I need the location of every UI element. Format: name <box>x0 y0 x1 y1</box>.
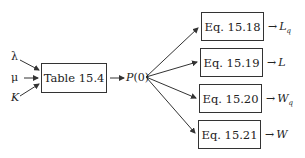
arrow-icon: → <box>265 128 274 141</box>
arrow-icon: → <box>268 20 277 33</box>
arrow-icon: → <box>266 92 275 105</box>
eq-label: Eq. 15.19 <box>204 56 260 70</box>
table-15-4-box: Table 15.4 <box>41 63 107 93</box>
output-l: →L <box>267 57 286 68</box>
fan-arrow-3 <box>146 77 196 98</box>
eq-label: Eq. 15.21 <box>202 128 258 142</box>
eq-15-18-box: Eq. 15.18 <box>201 12 264 41</box>
output-wq: →Wq <box>266 93 293 107</box>
eq-label: Eq. 15.18 <box>205 20 261 34</box>
arrow-icon: → <box>267 56 276 69</box>
lambda-arrow <box>20 60 39 70</box>
eq-label: Eq. 15.20 <box>203 92 259 106</box>
fan-arrow-4 <box>146 77 195 133</box>
k-arrow <box>20 84 39 96</box>
eq-15-20-box: Eq. 15.20 <box>199 84 262 113</box>
output-w: →W <box>265 129 288 140</box>
input-k: K <box>11 92 19 103</box>
table-box-label: Table 15.4 <box>44 71 105 85</box>
input-mu: μ <box>11 72 18 83</box>
eq-15-19-box: Eq. 15.19 <box>200 48 263 77</box>
diagram-canvas: λ μ K Table 15.4 P(0) Eq. 15.18 Eq. 15.1… <box>0 0 305 158</box>
p0-arg: (0) <box>133 71 149 84</box>
p0-label: P(0) <box>126 72 149 83</box>
output-lq: →Lq <box>268 21 291 35</box>
eq-15-21-box: Eq. 15.21 <box>198 120 261 149</box>
input-lambda: λ <box>11 51 18 62</box>
